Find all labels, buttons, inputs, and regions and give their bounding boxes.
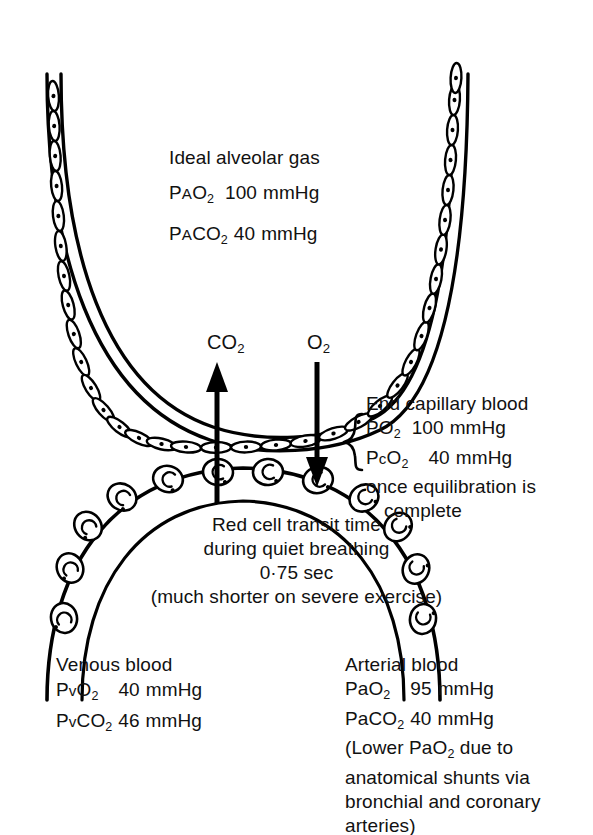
venous-po2-value: PvO240mmHg bbox=[56, 680, 202, 706]
alveolar-pco2-value: PACO240mmHg bbox=[169, 224, 320, 250]
transit-note: (much shorter on severe exercise) bbox=[0, 587, 593, 607]
end-capillary-note-line1: once equilibration is bbox=[366, 477, 536, 497]
end-capillary-pco2-value: PcO240mmHg bbox=[366, 448, 536, 474]
venous-blood-label-block: Venous blood PvO240mmHg PvCO246mmHg bbox=[56, 655, 202, 736]
venous-heading: Venous blood bbox=[56, 655, 202, 675]
transit-time-label-block: Red cell transit time during quiet breat… bbox=[0, 515, 593, 607]
venous-pco2-value: PvCO246mmHg bbox=[56, 711, 202, 737]
transit-line-1: Red cell transit time bbox=[0, 515, 593, 535]
arterial-heading: Arterial blood bbox=[345, 655, 540, 675]
alveolar-po2-value: PAO2100mmHg bbox=[169, 183, 320, 209]
arterial-blood-label-block: Arterial blood PaO295mmHg PaCO240mmHg (L… bbox=[345, 655, 540, 835]
arterial-pco2-value: PaCO240mmHg bbox=[345, 709, 540, 735]
alveolar-gas-label-block: Ideal alveolar gas PAO2100mmHg PACO240mm… bbox=[169, 148, 320, 249]
end-capillary-heading: End capillary blood bbox=[366, 394, 536, 414]
end-capillary-po2-value: PO2100mmHg bbox=[366, 418, 536, 444]
o2-arrow-label: O2 bbox=[307, 332, 330, 359]
arterial-note-line3: bronchial and coronary bbox=[345, 792, 540, 812]
figure-canvas: Ideal alveolar gas PAO2100mmHg PACO240mm… bbox=[0, 0, 593, 835]
arterial-note-line1: (Lower PaO2 due to bbox=[345, 738, 540, 764]
transit-duration: 0·75 sec bbox=[0, 563, 593, 583]
transit-line-2: during quiet breathing bbox=[0, 539, 593, 559]
end-capillary-label-block: End capillary blood PO2100mmHg PcO240mmH… bbox=[366, 394, 536, 521]
alveolar-gas-heading: Ideal alveolar gas bbox=[169, 148, 320, 168]
co2-arrow-label: CO2 bbox=[207, 332, 245, 359]
arterial-note-line4: arteries) bbox=[345, 816, 540, 835]
arterial-po2-value: PaO295mmHg bbox=[345, 679, 540, 705]
arterial-note-line2: anatomical shunts via bbox=[345, 768, 540, 788]
